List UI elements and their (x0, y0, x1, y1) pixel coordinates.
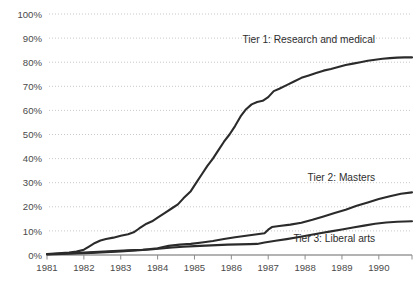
data-series-group (47, 57, 412, 254)
x-axis-tick-label: 1985 (184, 262, 205, 273)
x-axis-tick-label: 1982 (73, 262, 94, 273)
series-label-tier-2: Tier 2: Masters (308, 172, 376, 183)
y-axis-tick-label: 60% (23, 105, 43, 116)
x-axis-tick-label: 1989 (331, 262, 352, 273)
y-axis-tick-label: 20% (23, 201, 43, 212)
y-axis-tick-label: 100% (17, 9, 42, 20)
y-axis-tick-label: 0% (28, 250, 42, 261)
y-axis-tick-label: 40% (23, 153, 43, 164)
series-line-tier-1 (47, 57, 412, 254)
x-axis-tick-label: 1990 (368, 262, 389, 273)
line-chart: 0%10%20%30%40%50%60%70%80%90%100% 198119… (0, 0, 417, 284)
series-label-tier-3: Tier 3: Liberal arts (293, 233, 375, 244)
x-axis-tick-label: 1986 (221, 262, 242, 273)
y-axis-tick-label: 90% (23, 33, 43, 44)
x-axis-tick-label: 1981 (36, 262, 57, 273)
y-axis-tick-label: 10% (23, 226, 43, 237)
x-axis-tick-label: 1983 (110, 262, 131, 273)
series-labels-group: Tier 1: Research and medicalTier 2: Mast… (242, 34, 375, 244)
y-axis-tick-label: 30% (23, 177, 43, 188)
y-axis-tick-label: 80% (23, 57, 43, 68)
series-label-tier-1: Tier 1: Research and medical (242, 34, 375, 45)
x-axis-group (47, 255, 412, 260)
x-axis-labels-group: 1981198219831984198519861987198819891990 (36, 262, 389, 273)
y-axis-tick-label: 50% (23, 129, 43, 140)
chart-container: 0%10%20%30%40%50%60%70%80%90%100% 198119… (0, 0, 417, 284)
y-axis-tick-label: 70% (23, 81, 43, 92)
x-axis-tick-label: 1988 (294, 262, 315, 273)
x-axis-tick-label: 1984 (147, 262, 169, 273)
x-axis-tick-label: 1987 (258, 262, 279, 273)
gridlines-group (49, 14, 412, 231)
y-axis-labels-group: 0%10%20%30%40%50%60%70%80%90%100% (17, 9, 42, 261)
